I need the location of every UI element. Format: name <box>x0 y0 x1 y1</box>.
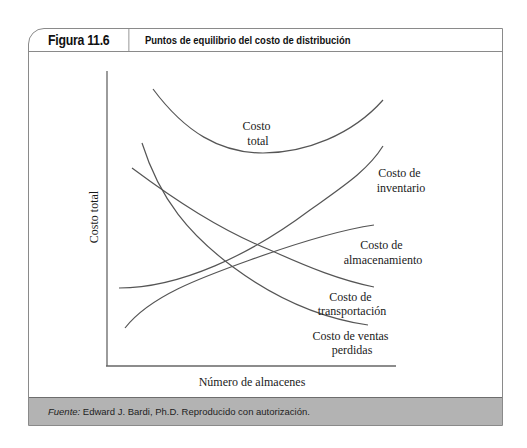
label-costo-ventas-perdidas: Costo de ventas perdidas <box>313 329 392 357</box>
label-costo-almacenamiento: Costo de almacenamiento <box>344 238 423 267</box>
label-costo-inventario: Costo de inventario <box>377 166 426 195</box>
x-axis-title: Número de almacenes <box>199 375 306 389</box>
label-costo-total: Costo total <box>242 119 273 148</box>
y-axis-title: Costo total <box>87 190 101 243</box>
chart: Costo total Costo de inventario Costo de… <box>0 0 527 448</box>
label-costo-transportacion: Costo de transportación <box>318 290 387 318</box>
series-costo-transportacion <box>132 168 374 287</box>
